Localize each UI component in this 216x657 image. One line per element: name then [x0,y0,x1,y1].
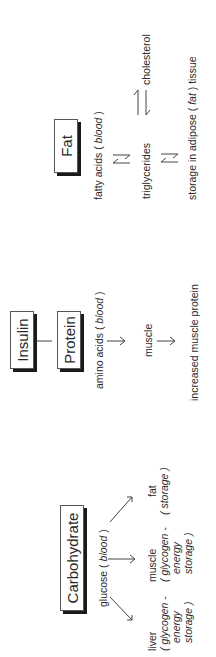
amino-acids-text: amino acids ( blood ) [93,292,105,390]
carbohydrate-box: Carbohydrate [60,505,84,611]
fatty-acids-text: fatty acids ( blood ) [92,111,104,200]
protein-muscle-text: muscle [142,324,154,357]
protein-box: Protein [57,311,81,369]
adipose-storage-text: storage in adipose ( fat ) tissue [186,56,198,200]
fat-box: Fat [54,119,78,173]
fat-title: Fat [58,135,75,157]
target-liver: liver ( glycogen - energy storage ) [146,596,194,651]
insulin-box: Insulin [10,311,34,369]
increased-muscle-protein-text: increased muscle protein [188,284,200,401]
target-fat: fat ( storage ) [146,467,170,515]
insulin-label: Insulin [14,318,31,361]
nutrient-insulin-diagram: Insulin Protein amino acids ( blood ) mu… [0,0,216,657]
cholesterol-text: cholesterol [140,34,152,85]
protein-title: Protein [61,316,78,364]
glucose-text: glucose ( blood ) [97,529,109,607]
triglycerides-text: triglycerides [140,143,152,199]
carbohydrate-title: Carbohydrate [64,513,81,604]
target-muscle: muscle ( glycogen - energy storage ) [146,527,194,582]
